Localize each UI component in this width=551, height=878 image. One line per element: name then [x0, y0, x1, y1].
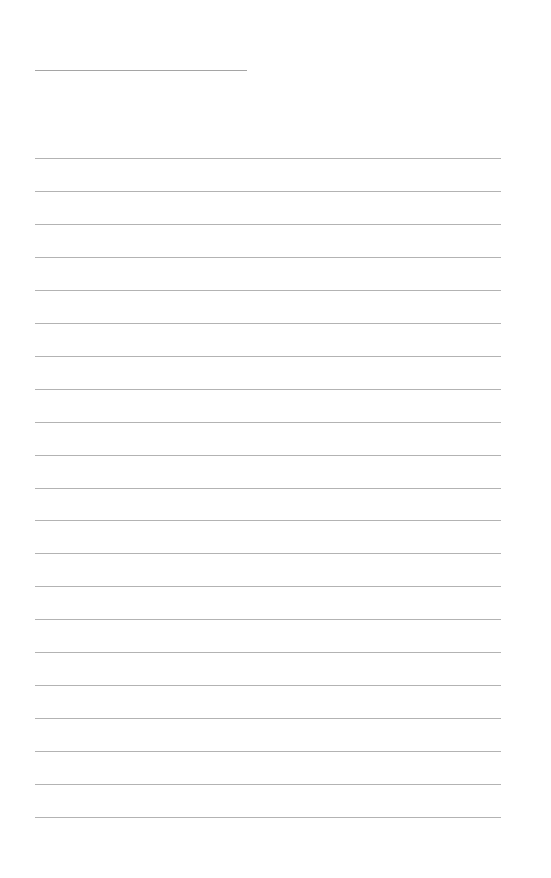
ruled-line	[35, 586, 501, 587]
ruled-line	[35, 718, 501, 719]
ruled-line	[35, 520, 501, 521]
ruled-line	[35, 553, 501, 554]
ruled-line	[35, 685, 501, 686]
ruled-line	[35, 751, 501, 752]
ruled-line	[35, 488, 501, 489]
ruled-line	[35, 455, 501, 456]
ruled-line	[35, 323, 501, 324]
title-underline	[35, 70, 247, 71]
lined-paper-page	[0, 0, 551, 878]
ruled-line	[35, 619, 501, 620]
ruled-line	[35, 191, 501, 192]
ruled-line	[35, 158, 501, 159]
ruled-line	[35, 422, 501, 423]
ruled-line	[35, 224, 501, 225]
ruled-line	[35, 290, 501, 291]
ruled-line	[35, 817, 501, 818]
ruled-line	[35, 652, 501, 653]
ruled-line	[35, 356, 501, 357]
ruled-line	[35, 784, 501, 785]
ruled-line	[35, 389, 501, 390]
ruled-line	[35, 257, 501, 258]
